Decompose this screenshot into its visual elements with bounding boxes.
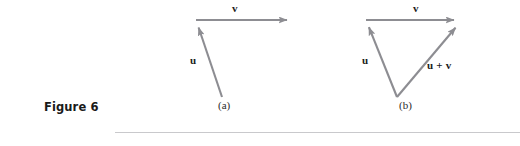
vector-label-b-u: u <box>362 54 368 66</box>
figure-board: Figure 6 v u v u u + v (a) (b) <box>0 0 520 146</box>
vector-label-b-u-plus-v: u + v <box>427 59 451 71</box>
vector-diagram-svg <box>0 0 520 146</box>
vector-b-u <box>369 27 397 97</box>
panel-caption-b: (b) <box>399 99 412 111</box>
vector-label-a-u: u <box>190 54 196 66</box>
vector-label-a-v: v <box>232 2 238 14</box>
vector-label-b-v: v <box>413 2 419 14</box>
panel-caption-a: (a) <box>218 99 230 111</box>
vector-a-u <box>199 28 222 98</box>
panel-a-vectors <box>196 20 287 97</box>
bottom-divider <box>115 132 520 133</box>
